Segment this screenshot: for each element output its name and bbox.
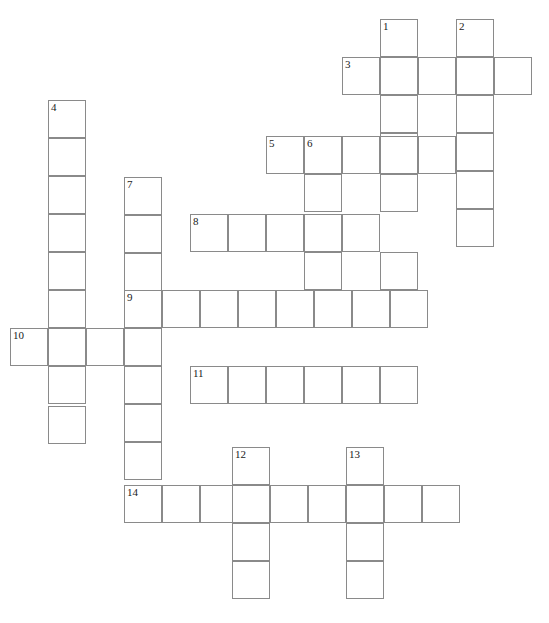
crossword-cell[interactable] [270,485,308,523]
crossword-cell[interactable] [304,214,342,252]
crossword-cell[interactable] [276,290,314,328]
crossword-cell[interactable] [346,561,384,599]
crossword-cell[interactable] [352,290,390,328]
clue-number-6: 6 [307,137,313,150]
crossword-cell[interactable] [48,328,86,366]
crossword-cell[interactable] [232,523,270,561]
crossword-cell[interactable] [380,366,418,404]
crossword-cell[interactable] [380,136,418,174]
crossword-cell[interactable] [266,366,304,404]
crossword-cell[interactable] [342,214,380,252]
crossword-cell[interactable] [304,174,342,212]
clue-number-1: 1 [383,20,389,33]
crossword-cell[interactable] [48,138,86,176]
crossword-cell[interactable] [48,290,86,328]
crossword-cell[interactable] [124,328,162,366]
crossword-cell[interactable] [390,290,428,328]
crossword-cell[interactable] [346,485,384,523]
crossword-cell-numbered[interactable]: 10 [10,328,48,366]
crossword-cell[interactable] [48,366,86,404]
crossword-cell-numbered[interactable]: 14 [124,485,162,523]
clue-number-14: 14 [127,486,138,499]
clue-number-7: 7 [127,178,133,191]
crossword-cell-numbered[interactable]: 6 [304,136,342,174]
crossword-cell[interactable] [308,485,346,523]
crossword-cell[interactable] [200,290,238,328]
crossword-cell[interactable] [228,366,266,404]
crossword-cell-numbered[interactable]: 7 [124,177,162,215]
crossword-cell-numbered[interactable]: 13 [346,447,384,485]
crossword-cell-numbered[interactable]: 11 [190,366,228,404]
crossword-cell[interactable] [418,57,456,95]
crossword-grid: 1234567891011121314 [0,0,549,623]
crossword-cell[interactable] [124,404,162,442]
crossword-cell-numbered[interactable]: 9 [124,290,162,328]
crossword-cell-numbered[interactable]: 8 [190,214,228,252]
crossword-cell-numbered[interactable]: 1 [380,19,418,57]
crossword-cell[interactable] [456,171,494,209]
crossword-cell-numbered[interactable]: 5 [266,136,304,174]
crossword-cell[interactable] [304,366,342,404]
crossword-cell[interactable] [124,366,162,404]
crossword-cell[interactable] [162,290,200,328]
crossword-cell[interactable] [384,485,422,523]
crossword-cell[interactable] [380,174,418,212]
clue-number-8: 8 [193,215,199,228]
crossword-cell-numbered[interactable]: 3 [342,57,380,95]
crossword-cell[interactable] [48,252,86,290]
crossword-cell-numbered[interactable]: 4 [48,100,86,138]
crossword-cell[interactable] [314,290,352,328]
crossword-cell[interactable] [418,136,456,174]
crossword-cell[interactable] [48,406,86,444]
crossword-cell[interactable] [456,209,494,247]
crossword-cell[interactable] [380,252,418,290]
crossword-cell[interactable] [232,485,270,523]
crossword-cell[interactable] [380,57,418,95]
clue-number-5: 5 [269,137,275,150]
crossword-cell[interactable] [86,328,124,366]
crossword-cell[interactable] [124,215,162,253]
crossword-cell[interactable] [48,176,86,214]
crossword-cell[interactable] [266,214,304,252]
clue-number-11: 11 [193,367,204,380]
crossword-cell[interactable] [342,136,380,174]
clue-number-9: 9 [127,291,133,304]
clue-number-10: 10 [13,329,24,342]
clue-number-2: 2 [459,20,465,33]
crossword-cell[interactable] [162,485,200,523]
crossword-cell[interactable] [124,253,162,291]
crossword-cell[interactable] [456,133,494,171]
crossword-cell[interactable] [228,214,266,252]
crossword-cell-numbered[interactable]: 12 [232,447,270,485]
crossword-cell-numbered[interactable]: 2 [456,19,494,57]
crossword-cell[interactable] [342,366,380,404]
crossword-cell[interactable] [422,485,460,523]
crossword-cell[interactable] [456,57,494,95]
crossword-cell[interactable] [494,57,532,95]
crossword-cell[interactable] [456,95,494,133]
crossword-cell[interactable] [380,95,418,133]
crossword-cell[interactable] [48,214,86,252]
crossword-cell[interactable] [124,442,162,480]
clue-number-13: 13 [349,448,360,461]
crossword-cell[interactable] [232,561,270,599]
clue-number-3: 3 [345,58,351,71]
clue-number-12: 12 [235,448,246,461]
clue-number-4: 4 [51,101,57,114]
crossword-cell[interactable] [304,252,342,290]
crossword-cell[interactable] [346,523,384,561]
crossword-cell[interactable] [238,290,276,328]
